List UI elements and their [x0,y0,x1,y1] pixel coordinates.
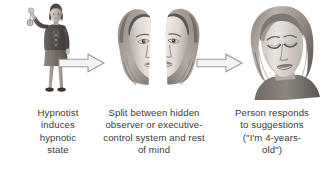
caption-split-mind: Split between hidden observer or executi… [91,107,217,157]
caption-response: Person responds to suggestions ("I'm 4-y… [220,107,324,157]
entranced-face-illustration [240,0,326,100]
caption-line: observer or executive- [91,119,217,131]
panel-hypnotist [6,0,110,102]
caption-line: Person responds [220,107,324,119]
caption-line: old") [220,144,324,156]
arrow-right-icon [196,52,244,74]
caption-line: control system and rest [91,132,217,144]
panel-response [240,0,326,102]
panel-split-mind [108,0,208,102]
hypnosis-process-diagram: Hypnotist induces hypnotic state Split b… [0,0,326,170]
caption-line: of mind [91,144,217,156]
arrow-right-icon [58,52,106,74]
hypnotist-figure-illustration [6,0,110,100]
caption-line: Split between hidden [91,107,217,119]
split-face-illustration [108,0,208,100]
caption-line: ("I'm 4-years- [220,132,324,144]
caption-line: to suggestions [220,119,324,131]
